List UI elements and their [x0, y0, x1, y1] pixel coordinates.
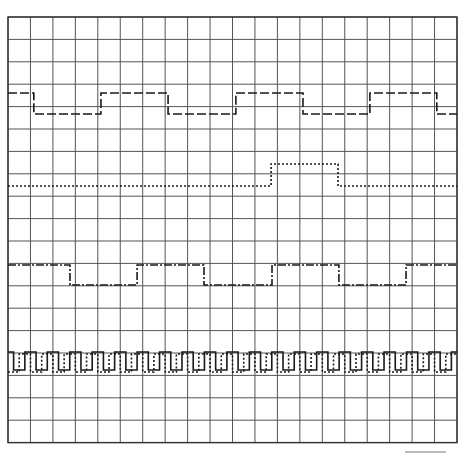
grid	[8, 17, 457, 443]
timing-diagram	[0, 0, 469, 458]
